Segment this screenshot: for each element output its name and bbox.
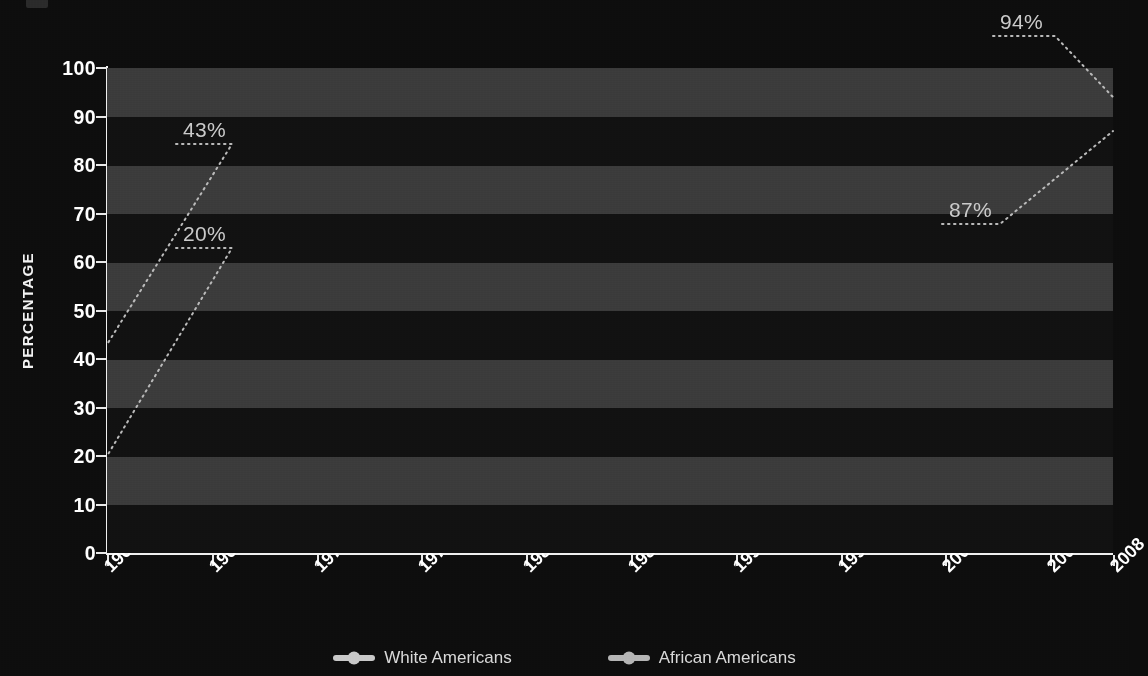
y-tick-label-0: 0 [28, 542, 96, 565]
plot-area [107, 68, 1113, 553]
band-30-40 [107, 359, 1113, 408]
annotation-20pct: 20% [183, 222, 226, 246]
cropped-artifact [26, 0, 48, 8]
y-tick-label-30: 30 [28, 396, 96, 419]
annotation-94pct: 94% [1000, 10, 1043, 34]
y-tick-label-10: 10 [28, 493, 96, 516]
legend-label-african-americans: African Americans [659, 648, 796, 668]
legend-marker-white-americans [333, 655, 375, 661]
band-0-10 [107, 505, 1113, 554]
y-tick-label-20: 20 [28, 445, 96, 468]
legend-label-white-americans: White Americans [384, 648, 512, 668]
chart-legend: White Americans African Americans [0, 648, 1129, 668]
band-80-90 [107, 117, 1113, 166]
y-tick-label-100: 100 [28, 57, 96, 80]
legend-item-african-americans[interactable]: African Americans [608, 648, 796, 668]
band-10-20 [107, 456, 1113, 505]
band-40-50 [107, 311, 1113, 360]
y-tick-label-80: 80 [28, 154, 96, 177]
y-tick-label-70: 70 [28, 202, 96, 225]
annotation-87pct: 87% [949, 198, 992, 222]
legend-item-white-americans[interactable]: White Americans [333, 648, 512, 668]
band-20-30 [107, 408, 1113, 457]
band-90-100 [107, 68, 1113, 117]
y-tick-label-60: 60 [28, 251, 96, 274]
legend-marker-african-americans [608, 655, 650, 661]
y-tick-label-40: 40 [28, 348, 96, 371]
annotation-43pct: 43% [183, 118, 226, 142]
y-tick-label-50: 50 [28, 299, 96, 322]
y-tick-label-90: 90 [28, 105, 96, 128]
band-50-60 [107, 262, 1113, 311]
